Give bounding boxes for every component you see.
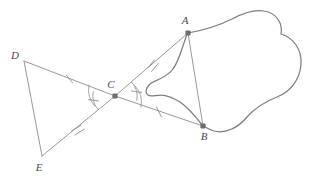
angle-mark-dce xyxy=(89,85,99,111)
point-label-d: D xyxy=(10,49,19,61)
segment-de xyxy=(24,61,42,156)
point-label-e: E xyxy=(35,161,43,173)
tick-ca xyxy=(148,60,159,71)
figure-canvas: A B C D E xyxy=(0,0,314,177)
geometry-figure: A B C D E xyxy=(0,0,314,177)
point-label-b: B xyxy=(201,130,208,142)
tick-ec xyxy=(72,125,85,135)
irregular-region-curve xyxy=(146,10,301,131)
point-label-c: C xyxy=(107,78,115,90)
vertex-point-b xyxy=(200,123,205,128)
segment-ec xyxy=(42,96,115,156)
point-label-a: A xyxy=(181,14,189,26)
vertex-point-a xyxy=(185,30,190,35)
segment-ca xyxy=(115,33,188,96)
vertex-point-c xyxy=(112,93,117,98)
segment-ab xyxy=(188,33,203,126)
